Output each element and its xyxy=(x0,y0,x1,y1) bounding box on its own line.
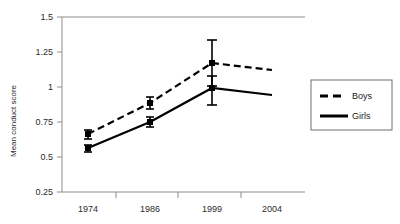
series-boys xyxy=(84,40,272,139)
y-tick-label-1-25: 1.25 xyxy=(35,47,53,57)
series-boys-line xyxy=(88,63,272,134)
y-tick-label-0-25: 0.25 xyxy=(35,187,53,197)
x-tick-label-1999: 1999 xyxy=(202,204,222,214)
y-axis-tick-labels: 1.5 1.25 1 0.75 0.5 0.25 xyxy=(35,12,53,197)
plot-axes xyxy=(57,17,305,198)
chart-legend: Boys Girls xyxy=(311,80,392,130)
x-tick-label-1986: 1986 xyxy=(140,204,160,214)
legend-label-girls: Girls xyxy=(352,111,371,121)
chart-container: 1.5 1.25 1 0.75 0.5 0.25 1974 1986 1999 … xyxy=(0,0,400,224)
x-tick-label-2004: 2004 xyxy=(262,204,282,214)
legend-border xyxy=(311,80,392,130)
y-tick-label-0-5: 0.5 xyxy=(40,152,53,162)
x-tick-label-1974: 1974 xyxy=(78,204,98,214)
x-axis-tick-labels: 1974 1986 1999 2004 xyxy=(78,204,282,214)
legend-label-boys: Boys xyxy=(352,91,373,101)
y-tick-label-1: 1 xyxy=(48,82,53,92)
y-tick-label-1-5: 1.5 xyxy=(40,12,53,22)
data-point-boys-1974 xyxy=(85,131,91,137)
series-girls xyxy=(84,76,272,152)
mean-conduct-score-line-chart: 1.5 1.25 1 0.75 0.5 0.25 1974 1986 1999 … xyxy=(0,0,400,224)
data-point-boys-1986 xyxy=(147,100,153,106)
y-axis-title: Mean conduct score xyxy=(9,84,18,157)
data-point-girls-1986 xyxy=(147,119,153,125)
data-point-girls-1974 xyxy=(85,145,91,151)
data-point-boys-1999 xyxy=(209,60,215,66)
data-point-girls-1999 xyxy=(209,85,215,91)
series-girls-line xyxy=(88,88,272,148)
y-tick-label-0-75: 0.75 xyxy=(35,117,53,127)
